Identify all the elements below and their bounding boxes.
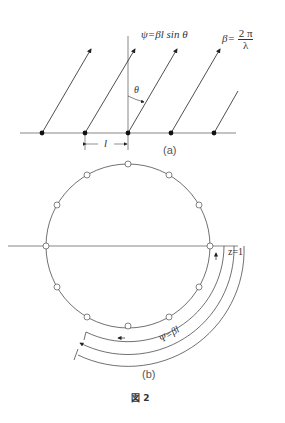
phase-arcs bbox=[74, 246, 244, 366]
diagram-canvas bbox=[0, 0, 285, 423]
beta-fraction: 2 π λ bbox=[238, 28, 254, 51]
figure-caption: 図 2 bbox=[131, 391, 149, 404]
wave-rays bbox=[42, 49, 238, 133]
theta-label: θ bbox=[134, 84, 139, 95]
beta-denominator: λ bbox=[243, 40, 248, 51]
theta-arc bbox=[128, 96, 144, 102]
part-b-label: (b) bbox=[142, 368, 155, 380]
beta-equation: β= 2 π λ bbox=[222, 28, 253, 51]
spacing-label: l bbox=[104, 137, 107, 149]
phase-equation: ψ=βl sin θ bbox=[141, 28, 188, 40]
beta-lhs: β= bbox=[222, 32, 235, 44]
z-label: z=1 bbox=[228, 246, 243, 257]
circle-points bbox=[43, 161, 213, 329]
part-a-label: (a) bbox=[163, 144, 176, 156]
